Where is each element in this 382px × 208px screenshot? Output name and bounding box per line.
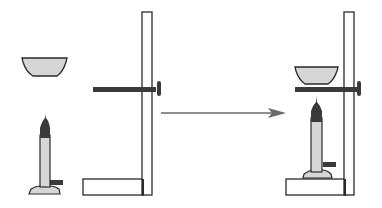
stand-base [286, 179, 346, 195]
clamp-rod [93, 87, 156, 92]
clamp-rod [295, 87, 357, 92]
stand-pole [142, 12, 152, 195]
arrow-icon [161, 108, 286, 118]
flame-icon [40, 114, 50, 138]
bunsen-burner [29, 114, 63, 194]
clamp-knob [357, 81, 361, 96]
before-panel [22, 12, 161, 195]
bunsen-burner [303, 96, 336, 178]
stand-pole [344, 12, 354, 195]
evaporating-dish [22, 58, 67, 76]
flame-icon [311, 96, 322, 122]
clamp-knob [157, 81, 161, 96]
after-panel [286, 12, 361, 195]
stand-base [83, 179, 143, 195]
evaporating-dish [295, 67, 338, 84]
apparatus-diagram [0, 0, 382, 208]
